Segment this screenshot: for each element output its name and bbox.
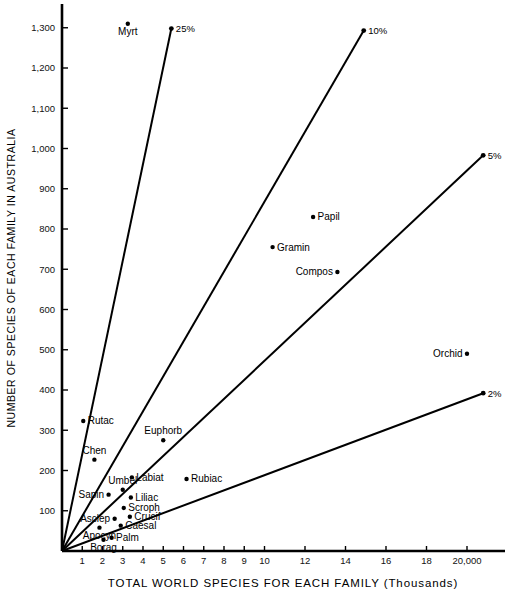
data-point-label: Borag bbox=[90, 542, 117, 553]
data-point bbox=[311, 215, 315, 219]
x-tick-label: 12 bbox=[300, 555, 311, 566]
data-point bbox=[119, 523, 123, 527]
reference-line-endpoint bbox=[481, 153, 486, 158]
reference-line-endpoint bbox=[361, 28, 366, 33]
data-point-label: Rutac bbox=[88, 415, 114, 426]
reference-line-label: 10% bbox=[368, 25, 388, 36]
data-point bbox=[184, 477, 188, 481]
data-point-label: Labiat bbox=[136, 472, 163, 483]
data-point-label: Compos bbox=[296, 266, 333, 277]
data-point bbox=[335, 270, 339, 274]
data-point bbox=[106, 492, 110, 496]
x-tick-label: 9 bbox=[242, 555, 247, 566]
y-tick-label: 900 bbox=[39, 183, 55, 194]
chart-canvas: 123456789101214161820,000 10020030040050… bbox=[0, 0, 509, 602]
data-point bbox=[465, 352, 469, 356]
reference-line-label: 25% bbox=[176, 23, 196, 34]
data-point-label: Apocyn bbox=[83, 530, 116, 541]
x-tick-label: 14 bbox=[340, 555, 351, 566]
y-axis-tick-labels: 1002003004005006007008009001,0001,1001,2… bbox=[31, 22, 55, 516]
x-tick-label: 7 bbox=[201, 555, 206, 566]
data-point-label: Caesal bbox=[125, 520, 156, 531]
data-point-label: Palm bbox=[116, 532, 139, 543]
data-point bbox=[128, 515, 132, 519]
y-tick-label: 1,200 bbox=[31, 62, 55, 73]
y-tick-label: 400 bbox=[39, 384, 55, 395]
reference-line-endpoint bbox=[481, 391, 486, 396]
data-point-label: Sapin bbox=[78, 489, 104, 500]
y-tick-label: 200 bbox=[39, 465, 55, 476]
data-point-label: Umbel bbox=[108, 475, 137, 486]
data-point-label: Orchid bbox=[433, 348, 462, 359]
data-point bbox=[161, 438, 165, 442]
data-point-label: Gramin bbox=[277, 242, 310, 253]
x-tick-label: 5 bbox=[161, 555, 166, 566]
y-tick-label: 1,100 bbox=[31, 103, 55, 114]
x-tick-label: 20,000 bbox=[452, 555, 481, 566]
y-axis-title: NUMBER OF SPECIES OF EACH FAMILY IN AUST… bbox=[5, 128, 17, 427]
x-tick-label: 6 bbox=[181, 555, 186, 566]
y-tick-label: 100 bbox=[39, 505, 55, 516]
data-point-label: Liliac bbox=[135, 492, 158, 503]
data-point-labels: MyrtPapilGraminComposOrchidEuphorbRutacC… bbox=[78, 26, 462, 553]
reference-line-endpoint bbox=[169, 26, 174, 31]
data-point bbox=[129, 495, 133, 499]
y-tick-label: 300 bbox=[39, 425, 55, 436]
data-point bbox=[270, 245, 274, 249]
x-axis-tick-labels: 123456789101214161820,000 bbox=[80, 555, 482, 566]
y-tick-label: 700 bbox=[39, 264, 55, 275]
x-axis-title: TOTAL WORLD SPECIES FOR EACH FAMILY (Tho… bbox=[108, 577, 458, 589]
x-tick-label: 4 bbox=[140, 555, 145, 566]
reference-lines bbox=[62, 26, 486, 551]
x-tick-label: 10 bbox=[259, 555, 270, 566]
data-point bbox=[122, 506, 126, 510]
data-point-label: Myrt bbox=[118, 26, 138, 37]
x-tick-label: 8 bbox=[221, 555, 226, 566]
y-tick-label: 600 bbox=[39, 304, 55, 315]
data-point bbox=[92, 457, 96, 461]
x-tick-label: 3 bbox=[120, 555, 125, 566]
x-tick-label: 18 bbox=[421, 555, 432, 566]
data-points-group bbox=[81, 22, 469, 542]
y-tick-label: 1,300 bbox=[31, 22, 55, 33]
data-point-label: Chen bbox=[82, 445, 106, 456]
reference-line-label: 5% bbox=[488, 150, 502, 161]
data-point-label: Rubiac bbox=[191, 473, 222, 484]
x-tick-label: 1 bbox=[80, 555, 85, 566]
y-tick-label: 1,000 bbox=[31, 143, 55, 154]
y-tick-label: 800 bbox=[39, 223, 55, 234]
x-tick-label: 16 bbox=[381, 555, 392, 566]
x-tick-label: 2 bbox=[100, 555, 105, 566]
data-point-label: Papil bbox=[318, 211, 340, 222]
reference-line bbox=[62, 155, 483, 551]
scatter-chart-figure: 123456789101214161820,000 10020030040050… bbox=[0, 0, 509, 602]
reference-line-label: 2% bbox=[488, 388, 502, 399]
data-point bbox=[81, 419, 85, 423]
data-point bbox=[112, 517, 116, 521]
data-point-label: Asclep bbox=[80, 513, 110, 524]
data-point-label: Euphorb bbox=[144, 425, 182, 436]
data-point bbox=[121, 488, 125, 492]
y-tick-label: 500 bbox=[39, 344, 55, 355]
